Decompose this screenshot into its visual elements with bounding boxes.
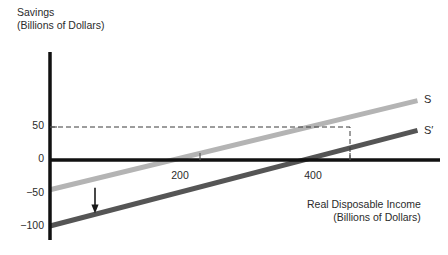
plot-area: [0, 0, 448, 255]
shift-arrow-icon: [91, 188, 98, 214]
savings-function-chart: Savings(Billions of Dollars) Real Dispos…: [0, 0, 448, 255]
